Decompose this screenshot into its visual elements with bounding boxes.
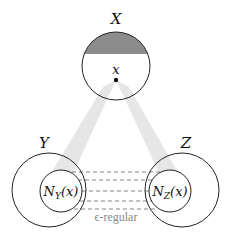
shaded-cap — [80, 30, 152, 54]
regularity-diagram: X x Y NY(x) Z NZ(x) ϵ-regular — [0, 0, 231, 236]
beam-to-nz — [116, 80, 180, 176]
set-x: X x — [80, 10, 152, 100]
point-x-dot — [114, 78, 118, 82]
set-y-label: Y — [39, 134, 51, 152]
set-x-label: X — [110, 10, 123, 28]
neighborhood-y-label: NY(x) — [43, 184, 79, 201]
set-z-label: Z — [180, 134, 192, 152]
point-x-label: x — [112, 62, 120, 77]
epsilon-regular-label: ϵ-regular — [95, 210, 138, 224]
neighborhood-z-label: NZ(x) — [151, 184, 187, 201]
beam-to-ny — [50, 80, 116, 176]
